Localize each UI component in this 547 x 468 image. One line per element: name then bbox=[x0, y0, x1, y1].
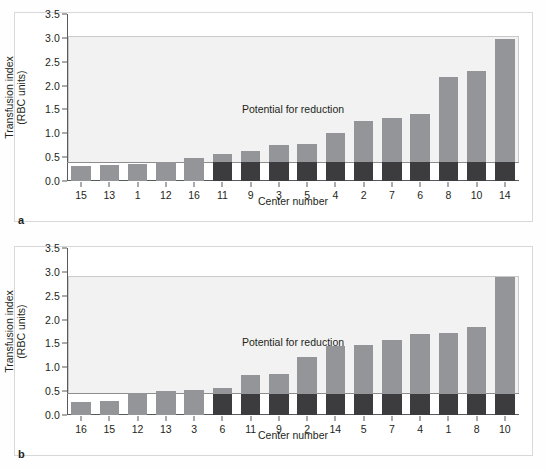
bar-group[interactable]: 15 bbox=[67, 14, 95, 181]
x-axis-tick bbox=[448, 182, 449, 187]
panel-a-y-axis-title: Transfusion index (RBC units) bbox=[4, 14, 26, 181]
bar-group[interactable]: 5 bbox=[350, 248, 378, 415]
stacked-bar[interactable] bbox=[269, 145, 288, 181]
bar-group[interactable]: 13 bbox=[95, 14, 123, 181]
bar-group[interactable]: 6 bbox=[208, 248, 236, 415]
x-axis-tick bbox=[250, 182, 251, 187]
stacked-bar[interactable] bbox=[156, 391, 175, 415]
bar-group[interactable]: 9 bbox=[265, 248, 293, 415]
stacked-bar[interactable] bbox=[354, 121, 373, 181]
stacked-bar[interactable] bbox=[297, 144, 316, 181]
x-axis-tick bbox=[250, 416, 251, 421]
bar-segment-benchmark bbox=[297, 394, 316, 415]
bar-group[interactable]: 12 bbox=[152, 14, 180, 181]
bar-segment-benchmark bbox=[439, 394, 458, 415]
stacked-bar[interactable] bbox=[467, 71, 486, 181]
bar-segment-benchmark bbox=[410, 162, 429, 181]
stacked-bar[interactable] bbox=[184, 390, 203, 415]
bar-group[interactable]: 8 bbox=[463, 248, 491, 415]
bar-group[interactable]: 14 bbox=[321, 248, 349, 415]
x-axis-tick bbox=[165, 182, 166, 187]
x-axis-tick bbox=[391, 182, 392, 187]
y-axis-tick-label: 2.5 bbox=[45, 56, 67, 68]
x-axis-tick bbox=[363, 416, 364, 421]
stacked-bar[interactable] bbox=[100, 401, 119, 415]
bar-group[interactable]: 7 bbox=[378, 248, 406, 415]
stacked-bar[interactable] bbox=[382, 340, 401, 415]
panel-a: Transfusion index (RBC units) Potential … bbox=[0, 0, 547, 234]
bar-segment-benchmark bbox=[326, 162, 345, 181]
stacked-bar[interactable] bbox=[410, 334, 429, 415]
stacked-bar[interactable] bbox=[184, 158, 203, 181]
bar-segment-reducible bbox=[297, 357, 316, 394]
x-axis-tick bbox=[476, 416, 477, 421]
bar-segment-reducible bbox=[156, 391, 175, 415]
panel-b-x-axis-title: Center number bbox=[67, 429, 519, 441]
x-axis-tick bbox=[278, 416, 279, 421]
panel-a-bars: 15131121611935427681014 bbox=[67, 14, 519, 181]
stacked-bar[interactable] bbox=[326, 346, 345, 415]
stacked-bar[interactable] bbox=[354, 345, 373, 415]
y-axis-tick-label: 1.0 bbox=[45, 127, 67, 139]
bar-segment-reducible bbox=[439, 333, 458, 393]
stacked-bar[interactable] bbox=[410, 114, 429, 181]
bar-group[interactable]: 16 bbox=[67, 248, 95, 415]
bar-segment-reducible bbox=[241, 375, 260, 393]
bar-group[interactable]: 6 bbox=[406, 14, 434, 181]
bar-group[interactable]: 3 bbox=[180, 248, 208, 415]
x-axis-tick bbox=[109, 182, 110, 187]
bar-group[interactable]: 2 bbox=[350, 14, 378, 181]
stacked-bar[interactable] bbox=[71, 166, 90, 181]
stacked-bar[interactable] bbox=[467, 327, 486, 415]
stacked-bar[interactable] bbox=[326, 133, 345, 181]
bar-group[interactable]: 14 bbox=[491, 14, 519, 181]
stacked-bar[interactable] bbox=[241, 375, 260, 415]
x-axis-tick bbox=[335, 416, 336, 421]
y-axis-tick-label: 0.0 bbox=[45, 175, 67, 187]
bar-group[interactable]: 3 bbox=[265, 14, 293, 181]
x-axis-tick bbox=[307, 416, 308, 421]
stacked-bar[interactable] bbox=[439, 333, 458, 415]
bar-segment-reducible bbox=[467, 71, 486, 162]
stacked-bar[interactable] bbox=[213, 388, 232, 415]
stacked-bar[interactable] bbox=[297, 357, 316, 415]
bar-group[interactable]: 16 bbox=[180, 14, 208, 181]
bar-group[interactable]: 4 bbox=[406, 248, 434, 415]
bar-group[interactable]: 12 bbox=[124, 248, 152, 415]
bar-segment-benchmark bbox=[241, 162, 260, 181]
x-axis-tick bbox=[448, 416, 449, 421]
stacked-bar[interactable] bbox=[495, 39, 514, 181]
bar-group[interactable]: 1 bbox=[124, 14, 152, 181]
stacked-bar[interactable] bbox=[382, 118, 401, 181]
stacked-bar[interactable] bbox=[213, 154, 232, 181]
stacked-bar[interactable] bbox=[128, 393, 147, 415]
stacked-bar[interactable] bbox=[100, 165, 119, 181]
stacked-bar[interactable] bbox=[128, 164, 147, 181]
x-axis-tick bbox=[307, 182, 308, 187]
x-axis-tick bbox=[81, 416, 82, 421]
stacked-bar[interactable] bbox=[241, 151, 260, 181]
y-axis-tick-label: 2.0 bbox=[45, 80, 67, 92]
bar-group[interactable]: 15 bbox=[95, 248, 123, 415]
bar-group[interactable]: 1 bbox=[434, 248, 462, 415]
stacked-bar[interactable] bbox=[269, 374, 288, 415]
bar-group[interactable]: 9 bbox=[237, 14, 265, 181]
bar-group[interactable]: 5 bbox=[293, 14, 321, 181]
bar-group[interactable]: 7 bbox=[378, 14, 406, 181]
bar-group[interactable]: 4 bbox=[321, 14, 349, 181]
y-axis-tick-label: 1.5 bbox=[45, 337, 67, 349]
x-axis-tick bbox=[504, 182, 505, 187]
bar-group[interactable]: 11 bbox=[237, 248, 265, 415]
stacked-bar[interactable] bbox=[156, 162, 175, 181]
stacked-bar[interactable] bbox=[495, 277, 514, 415]
bar-segment-benchmark bbox=[297, 162, 316, 181]
bar-group[interactable]: 13 bbox=[152, 248, 180, 415]
bar-group[interactable]: 2 bbox=[293, 248, 321, 415]
bar-group[interactable]: 10 bbox=[463, 14, 491, 181]
bar-group[interactable]: 11 bbox=[208, 14, 236, 181]
stacked-bar[interactable] bbox=[71, 402, 90, 415]
x-axis-tick bbox=[137, 416, 138, 421]
bar-group[interactable]: 8 bbox=[434, 14, 462, 181]
bar-group[interactable]: 10 bbox=[491, 248, 519, 415]
stacked-bar[interactable] bbox=[439, 77, 458, 181]
